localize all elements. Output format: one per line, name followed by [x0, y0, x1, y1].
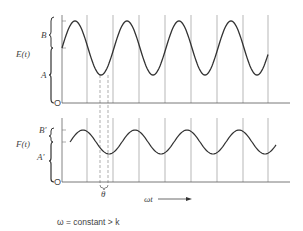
F-waveform — [70, 130, 276, 154]
x-axis-label: ωt — [144, 195, 153, 204]
B-prime-label: B' — [39, 126, 46, 135]
A-label: A — [41, 71, 47, 80]
A-prime-label: A' — [37, 153, 44, 162]
F-function-label: F(t) — [16, 140, 30, 149]
bracket-A-prime-icon — [49, 142, 54, 182]
theta-label: θ — [101, 190, 105, 199]
top-origin-label: O — [54, 99, 61, 108]
bracket-B-prime-icon — [49, 128, 54, 142]
bottom-origin-label: O — [54, 178, 61, 187]
B-label: B — [41, 31, 47, 40]
bracket-A-icon — [49, 48, 54, 103]
E-function-label: E(t) — [16, 50, 30, 59]
bracket-B-icon — [49, 17, 54, 48]
arrow-head-icon — [186, 197, 192, 201]
phase-dashed-lines — [100, 75, 108, 184]
caption: ω = constant > k — [57, 218, 119, 227]
